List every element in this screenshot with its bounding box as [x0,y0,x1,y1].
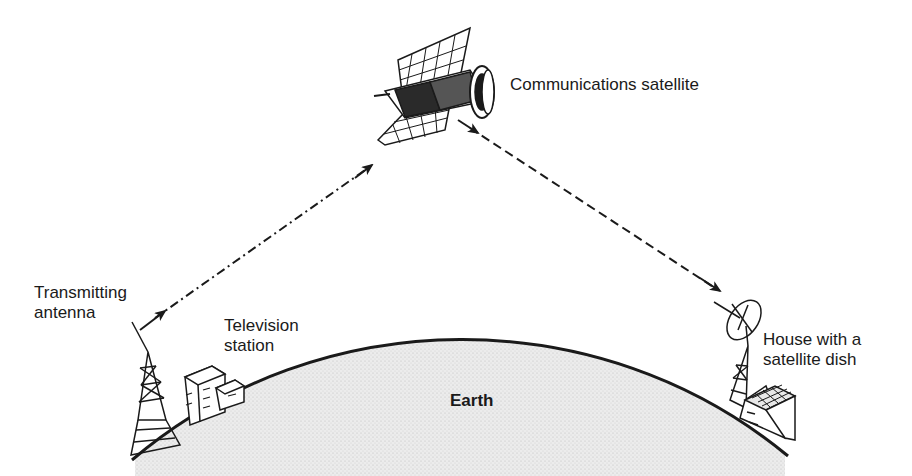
satellite-label: Communications satellite [510,75,699,95]
diagram-canvas: Communications satellite Transmitting an… [0,0,912,476]
downlink-arrow [458,120,720,291]
station-label: Television station [224,316,299,356]
satellite-icon [374,28,494,145]
transmitter-label: Transmitting antenna [34,283,127,323]
uplink-arrow [140,165,372,330]
house-label: House with a satellite dish [763,330,861,370]
earth-label: Earth [450,391,493,411]
